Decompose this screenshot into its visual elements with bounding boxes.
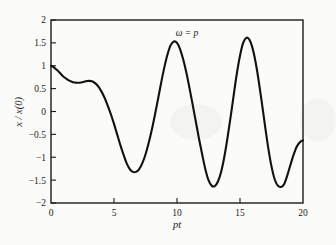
- y-axis-title: x / x(0): [13, 97, 25, 128]
- x-axis-title: pt: [172, 219, 182, 230]
- y-tick-label: 0.5: [34, 84, 46, 94]
- x-tick-label: 15: [235, 208, 245, 218]
- figure-container: 21.510.50−0.5−1−1.5−2 05101520 ω = p pt …: [0, 0, 336, 245]
- x-tick-label: 0: [49, 208, 54, 218]
- y-tick-label: −0.5: [29, 130, 46, 140]
- x-tick-label: 5: [112, 208, 117, 218]
- y-tick-label: 2: [41, 15, 46, 25]
- y-axis-tick-labels: 21.510.50−0.5−1−1.5−2: [29, 15, 46, 208]
- x-tick-label: 20: [298, 208, 308, 218]
- y-tick-label: 1.5: [34, 38, 46, 48]
- x-axis-tick-labels: 05101520: [49, 208, 308, 218]
- y-tick-label: 0: [41, 107, 46, 117]
- y-tick-label: −2: [36, 198, 46, 208]
- y-tick-label: −1: [36, 153, 46, 163]
- scan-smudge: [300, 98, 336, 142]
- y-axis-ticks: [51, 20, 56, 203]
- x-axis-ticks: [114, 198, 240, 203]
- x-tick-label: 10: [172, 208, 182, 218]
- omega-equals-p-annotation: ω = p: [176, 28, 199, 38]
- chart-canvas: 21.510.50−0.5−1−1.5−2 05101520 ω = p pt …: [0, 0, 336, 245]
- y-tick-label: −1.5: [29, 176, 46, 186]
- y-tick-label: 1: [41, 61, 46, 71]
